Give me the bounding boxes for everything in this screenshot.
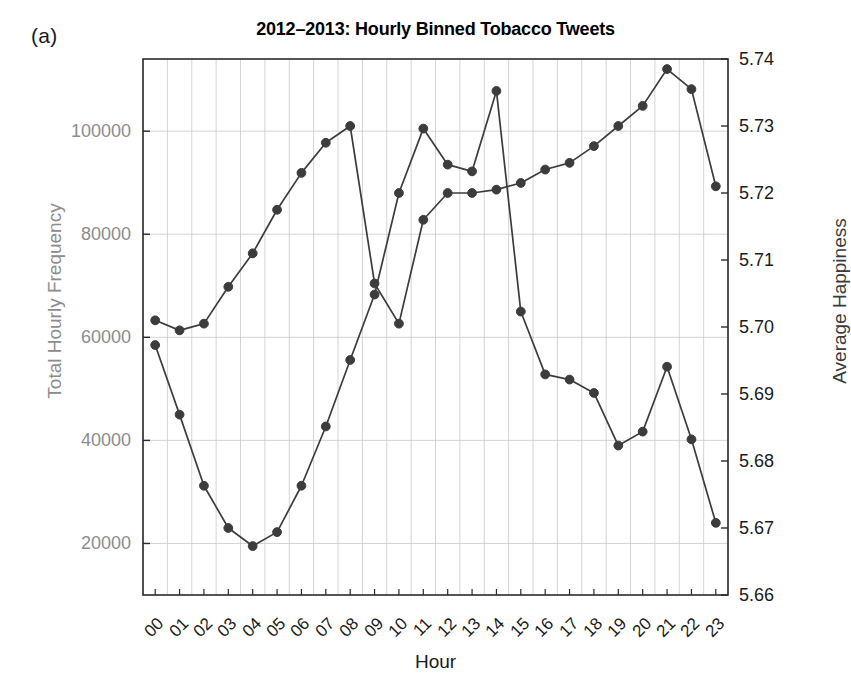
- y-tick-label-right: 5.74: [739, 49, 819, 70]
- data-point: [200, 481, 209, 490]
- data-point: [492, 87, 501, 96]
- y-tick-label-right: 5.73: [739, 116, 819, 137]
- data-point: [200, 319, 209, 328]
- y-tick-label-left: 40000: [21, 430, 131, 451]
- data-point: [297, 481, 306, 490]
- data-point: [346, 356, 355, 365]
- panel-label: (a): [31, 24, 58, 48]
- data-point: [468, 167, 477, 176]
- data-point: [443, 189, 452, 198]
- chart-title: 2012–2013: Hourly Binned Tobacco Tweets: [143, 19, 728, 40]
- data-point: [663, 362, 672, 371]
- data-point: [297, 169, 306, 178]
- data-point: [638, 427, 647, 436]
- data-point: [395, 319, 404, 328]
- data-point: [711, 182, 720, 191]
- data-point: [175, 326, 184, 335]
- y-tick-label-right: 5.70: [739, 317, 819, 338]
- data-point: [224, 524, 233, 533]
- y-tick-label-right: 5.67: [739, 518, 819, 539]
- data-point: [370, 290, 379, 299]
- y-tick-label-right: 5.69: [739, 384, 819, 405]
- data-point: [419, 124, 428, 133]
- data-point: [346, 122, 355, 131]
- y-tick-label-right: 5.68: [739, 451, 819, 472]
- data-point: [395, 189, 404, 198]
- data-point: [541, 165, 550, 174]
- data-point: [541, 370, 550, 379]
- data-point: [687, 85, 696, 94]
- y-tick-label-left: 60000: [21, 327, 131, 348]
- data-point: [443, 160, 452, 169]
- data-point: [151, 341, 160, 350]
- data-point: [151, 316, 160, 325]
- data-point: [663, 65, 672, 74]
- data-point: [590, 142, 599, 151]
- data-point: [516, 307, 525, 316]
- data-point: [565, 375, 574, 384]
- data-point: [492, 185, 501, 194]
- x-axis-title: Hour: [143, 651, 728, 673]
- data-point: [273, 205, 282, 214]
- data-point: [614, 441, 623, 450]
- data-point: [175, 410, 184, 419]
- data-point: [687, 435, 696, 444]
- data-point: [565, 158, 574, 167]
- data-point: [321, 422, 330, 431]
- data-point: [638, 102, 647, 111]
- data-point: [248, 249, 257, 258]
- data-point: [321, 138, 330, 147]
- data-point: [711, 518, 720, 527]
- y-axis-right-title: Average Happiness: [829, 151, 851, 451]
- y-tick-label-right: 5.66: [739, 585, 819, 606]
- data-point: [419, 215, 428, 224]
- data-point: [590, 389, 599, 398]
- y-tick-label-left: 20000: [21, 533, 131, 554]
- data-point: [273, 528, 282, 537]
- y-tick-label-right: 5.71: [739, 250, 819, 271]
- data-point: [516, 179, 525, 188]
- data-point: [224, 282, 233, 291]
- y-tick-label-right: 5.72: [739, 183, 819, 204]
- data-point: [468, 189, 477, 198]
- data-point: [370, 279, 379, 288]
- y-tick-label-left: 100000: [21, 121, 131, 142]
- data-point: [614, 122, 623, 131]
- y-axis-left-title: Total Hourly Frequency: [44, 151, 66, 451]
- data-point: [248, 542, 257, 551]
- y-tick-label-left: 80000: [21, 224, 131, 245]
